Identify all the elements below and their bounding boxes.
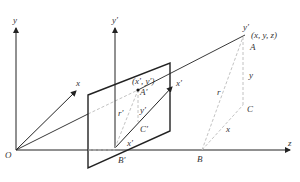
label-C-prime: C′ [140,124,149,134]
label-y-axis: y [12,15,17,25]
label-y-prime-top: y′ [242,22,250,32]
x-line [202,105,243,150]
label-y-prime-len: y′ [139,105,147,115]
projection-ray-lower [16,114,88,150]
label-B: B [197,154,203,164]
label-y-prime-axis: y′ [111,15,119,25]
label-origin: O [5,150,12,160]
label-r-prime: r′ [118,108,125,118]
perspective-projection-diagram: y x z O y′ x′ y′ (x, y, z) A y r C x B (… [0,0,300,182]
label-A-prime: A′ [139,87,148,97]
label-A: A [249,42,256,52]
label-image-point: (x′, y′) [132,76,154,86]
label-x-prime-len: x′ [126,138,134,148]
label-r: r [217,87,221,97]
label-x-len: x [225,124,230,134]
label-B-prime: B′ [118,155,126,165]
projection-ray-hidden [88,90,138,114]
label-y-len: y [248,70,253,80]
label-x-axis: x [75,78,80,88]
label-x-prime-axis: x′ [175,78,183,88]
label-point-3d: (x, y, z) [251,30,277,40]
x-axis [16,91,76,150]
label-C: C [247,104,254,114]
label-z-axis: z [287,138,292,148]
image-plane [88,63,170,168]
